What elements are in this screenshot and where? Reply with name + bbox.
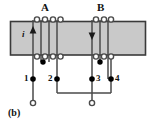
polarity-dot-winding-a [40,59,45,64]
coil-loop-icon [42,54,47,59]
coil-loop-icon [34,17,39,22]
output-terminal-right[interactable] [89,100,94,105]
coil-loop-icon [108,17,113,22]
coil-loop-icon [34,54,39,59]
terminal-dot-1[interactable] [30,76,36,82]
terminal-label-3: 3 [96,74,101,83]
coil-loop-icon [58,17,63,22]
current-label-i: i [22,30,25,39]
terminal-dot-3[interactable] [89,76,95,82]
coil-loop-icon [101,17,106,22]
winding-b-bottom-loops [93,54,113,59]
terminal-label-4: 4 [115,74,120,83]
coil-loop-icon [101,54,106,59]
coil-loop-icon [58,54,63,59]
coil-loop-icon [93,17,98,22]
winding-label-b: B [97,2,104,13]
circuit-diagram-canvas [0,0,156,123]
polarity-dot-winding-b [97,59,102,64]
terminal-label-1: 1 [24,74,29,83]
terminal-dot-2[interactable] [54,76,60,82]
winding-b-top-loops [93,17,113,22]
transformer-core [11,22,146,56]
terminal-label-2: 2 [48,74,53,83]
transformer-figure: A B i 1 2 3 4 (b) [0,0,156,123]
coil-loop-icon [50,17,55,22]
terminal-dot-4[interactable] [108,76,114,82]
coil-loop-icon [50,54,55,59]
winding-label-a: A [41,2,49,13]
figure-caption: (b) [8,108,20,118]
output-terminal-left[interactable] [30,100,35,105]
coil-loop-icon [42,17,47,22]
coil-loop-icon [108,54,113,59]
coil-loop-icon [93,54,98,59]
